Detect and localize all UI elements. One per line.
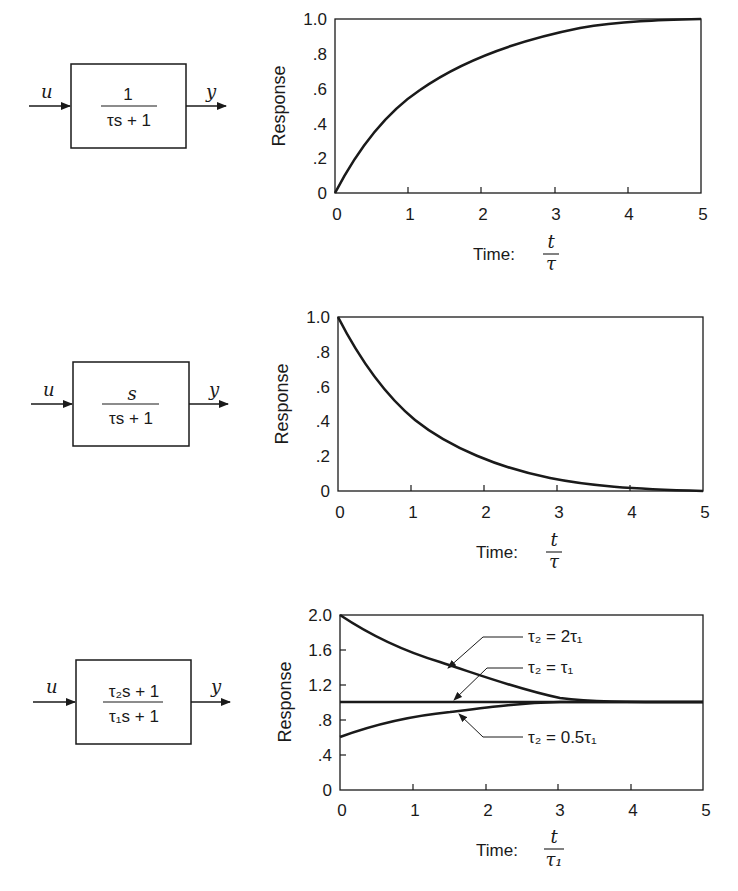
y-tick-labels: 1.0 .8 .6 .4 .2 0 — [303, 10, 327, 203]
svg-text:2.0: 2.0 — [308, 606, 332, 625]
plot-derivative-lag-response: 1.0 .8 .6 .4 .2 0 0 1 2 3 4 5 Response T… — [272, 308, 710, 572]
svg-text:.8: .8 — [313, 45, 327, 64]
annotation-arrow-icon — [454, 668, 523, 700]
svg-text:.8: .8 — [316, 343, 330, 362]
tf-numerator: s — [127, 383, 136, 404]
svg-text:5: 5 — [700, 503, 709, 522]
annotation-tau2-2tau1: τ₂ = 2τ₁ — [528, 627, 583, 646]
svg-text:2: 2 — [483, 801, 492, 820]
svg-text:.6: .6 — [316, 378, 330, 397]
svg-text:4: 4 — [624, 205, 633, 224]
svg-text:2: 2 — [481, 503, 490, 522]
input-label: u — [41, 81, 53, 102]
svg-text:1: 1 — [408, 503, 417, 522]
tf-numerator: 1 — [123, 85, 132, 104]
block-diagram-first-order: u 1 τs + 1 y — [29, 64, 226, 148]
input-label: u — [43, 379, 55, 400]
svg-text:5: 5 — [698, 205, 707, 224]
svg-text:.6: .6 — [313, 80, 327, 99]
y-axis-label: Response — [275, 661, 295, 742]
svg-text:1.2: 1.2 — [308, 676, 332, 695]
svg-text:1: 1 — [405, 205, 414, 224]
x-tick-labels: 0 1 2 3 4 5 — [332, 205, 707, 224]
svg-text:.8: .8 — [318, 711, 332, 730]
plot-frame — [335, 19, 701, 193]
svg-text:2: 2 — [478, 205, 487, 224]
svg-text:0: 0 — [323, 781, 332, 800]
input-label: u — [46, 676, 58, 697]
svg-text:0: 0 — [321, 482, 330, 501]
x-axis-frac-num: t — [550, 826, 558, 847]
svg-text:.4: .4 — [318, 746, 332, 765]
x-axis-label: Time: — [473, 245, 515, 264]
y-axis-label: Response — [272, 363, 292, 444]
svg-text:4: 4 — [628, 801, 637, 820]
x-axis-label: Time: — [476, 543, 518, 562]
block-diagram-derivative-lag: u s τs + 1 y — [31, 362, 228, 446]
output-label: y — [205, 81, 217, 102]
svg-text:1.6: 1.6 — [308, 641, 332, 660]
svg-text:3: 3 — [554, 503, 563, 522]
plot-first-order-response: 1.0 .8 .6 .4 .2 0 0 1 2 3 4 5 Response T… — [269, 10, 708, 274]
block-diagram-lead-lag: u τ₂s + 1 τ₁s + 1 y — [33, 660, 230, 744]
curve-tau2-2tau1 — [340, 615, 703, 702]
x-tick-labels: 0 1 2 3 4 5 — [335, 503, 709, 522]
annotation-tau2-half-tau1: τ₂ = 0.5τ₁ — [528, 728, 597, 747]
svg-text:5: 5 — [701, 801, 710, 820]
svg-text:.4: .4 — [313, 115, 327, 134]
tf-numerator: τ₂s + 1 — [109, 682, 160, 701]
response-curve — [335, 19, 701, 193]
curve-tau2-half-tau1 — [340, 702, 703, 737]
svg-text:.2: .2 — [313, 149, 327, 168]
svg-text:0: 0 — [337, 801, 346, 820]
plot-frame — [338, 317, 703, 491]
figure-canvas: u 1 τs + 1 y 1.0 .8 .6 .4 .2 0 0 1 2 3 4… — [0, 0, 738, 891]
svg-text:3: 3 — [555, 801, 564, 820]
svg-text:3: 3 — [551, 205, 560, 224]
response-curve — [338, 317, 703, 491]
y-tick-labels: 1.0 .8 .6 .4 .2 0 — [306, 308, 330, 501]
x-axis-label: Time: — [476, 841, 518, 860]
svg-text:.4: .4 — [316, 412, 330, 431]
x-tick-labels: 0 1 2 3 4 5 — [337, 801, 710, 820]
svg-text:1.0: 1.0 — [306, 308, 330, 327]
x-axis-frac-den: τ₁ — [545, 849, 562, 870]
svg-text:0: 0 — [332, 205, 341, 224]
svg-text:0: 0 — [335, 503, 344, 522]
annotation-arrow-icon — [448, 637, 523, 668]
x-axis-frac-num: t — [550, 529, 558, 550]
svg-text:.2: .2 — [316, 447, 330, 466]
tick-marks — [340, 650, 631, 790]
tf-denominator: τ₁s + 1 — [109, 707, 159, 726]
x-tick-marks — [408, 187, 628, 193]
tf-denominator: τs + 1 — [107, 111, 151, 130]
y-axis-label: Response — [269, 65, 289, 146]
svg-text:4: 4 — [627, 503, 636, 522]
svg-text:1: 1 — [410, 801, 419, 820]
output-label: y — [208, 379, 220, 400]
svg-text:0: 0 — [318, 184, 327, 203]
x-axis-frac-den: τ — [549, 551, 560, 572]
plot-lead-lag-response: 2.0 1.6 1.2 .8 .4 0 0 1 2 3 4 5 Response… — [275, 606, 711, 870]
svg-text:1.0: 1.0 — [303, 10, 327, 29]
output-label: y — [210, 676, 222, 697]
annotation-tau2-tau1: τ₂ = τ₁ — [528, 658, 573, 677]
tf-denominator: τs + 1 — [109, 409, 153, 428]
x-axis-frac-num: t — [547, 231, 555, 252]
x-axis-frac-den: τ — [546, 253, 557, 274]
annotation-arrow-icon — [459, 714, 523, 737]
y-tick-labels: 2.0 1.6 1.2 .8 .4 0 — [308, 606, 332, 800]
